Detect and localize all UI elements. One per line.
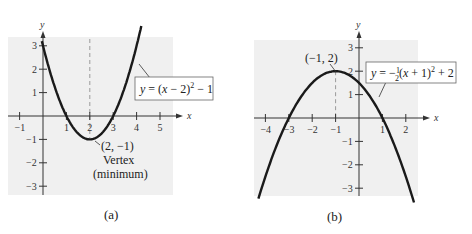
x-tick-label: 1 <box>64 122 69 133</box>
x-axis-label: x <box>433 112 439 123</box>
y-axis-label: y <box>39 19 45 30</box>
y-axis-arrow-icon <box>357 31 362 38</box>
x-axis-arrow-icon <box>176 114 183 119</box>
y-tick-label: 1 <box>32 87 37 98</box>
x-tick-label: −2 <box>307 124 318 135</box>
x-tick-label: 3 <box>111 122 116 133</box>
x-tick-label: 2 <box>87 122 92 133</box>
x-tick-label: 4 <box>134 122 139 133</box>
y-tick-label: −1 <box>26 134 37 145</box>
x-axis-label: x <box>186 110 192 121</box>
panel-b-vertex-label: (−1, 2) <box>305 51 338 65</box>
y-tick-label: 3 <box>348 42 353 53</box>
y-tick-label: −1 <box>342 136 353 147</box>
y-tick-label: 1 <box>348 89 353 100</box>
x-tick-label: 5 <box>158 122 163 133</box>
y-tick-label: −2 <box>26 157 37 168</box>
x-tick-label: 1 <box>380 124 385 135</box>
x-tick-label: −4 <box>260 124 271 135</box>
y-tick-label: −3 <box>342 183 353 194</box>
panel-a-vertex-note: Vertex <box>103 153 134 167</box>
x-tick-label: 2 <box>403 124 408 135</box>
panel-b: xy−4−3−2−112−3−2−1123 y = −12(x + 1)2 + … <box>254 19 456 224</box>
y-axis-label: y <box>355 19 361 30</box>
y-axis-arrow-icon <box>41 31 46 38</box>
panel-a-caption: (a) <box>104 207 118 222</box>
y-tick-label: −2 <box>342 159 353 170</box>
x-tick-label: −1 <box>331 124 342 135</box>
panel-a-vertex-label: (2, −1) <box>101 139 134 153</box>
figure-canvas: xy−112345−3−2−1123 y = (x − 2)2 − 1 (2, … <box>0 0 472 234</box>
panel-a-equation: y = (x − 2)2 − 1 <box>139 81 213 96</box>
panel-b-caption: (b) <box>327 209 342 224</box>
panel-a: xy−112345−3−2−1123 y = (x − 2)2 − 1 (2, … <box>8 19 213 222</box>
y-tick-label: −3 <box>26 181 37 192</box>
y-tick-label: 2 <box>32 64 37 75</box>
x-tick-label: −1 <box>15 122 26 133</box>
y-tick-label: 3 <box>32 40 37 51</box>
panel-a-vertex-note-min: (minimum) <box>93 167 148 181</box>
x-axis-arrow-icon <box>423 116 430 121</box>
